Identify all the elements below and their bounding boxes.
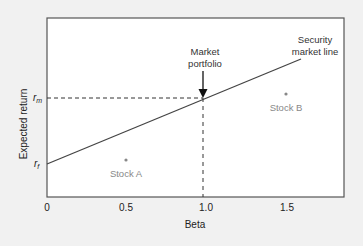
market-portfolio-label-1: Market [190, 46, 219, 57]
market-portfolio-label-2: portfolio [188, 58, 222, 69]
ytick-rm: rm [33, 92, 42, 104]
sml-chart: Market portfolio Security market line St… [0, 0, 363, 246]
sml-label-2: market line [292, 46, 338, 57]
ytick-rf-sub: f [37, 163, 40, 170]
stock-a-label: Stock A [110, 168, 143, 179]
stock-b-label: Stock B [270, 102, 303, 113]
x-axis-label: Beta [185, 219, 206, 230]
stock-b-dot [284, 92, 287, 95]
ytick-rm-sub: m [36, 97, 42, 104]
stock-a-dot [124, 158, 127, 161]
ytick-rf: rf [34, 158, 40, 170]
y-axis-label: Expected return [18, 89, 29, 160]
xtick-0: 0 [44, 202, 50, 213]
xtick-1-5: 1.5 [280, 202, 294, 213]
xtick-1-0: 1.0 [199, 202, 213, 213]
xtick-0-5: 0.5 [119, 202, 133, 213]
sml-label-1: Security [298, 34, 333, 45]
